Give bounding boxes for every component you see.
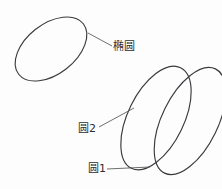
diagram-canvas bbox=[0, 0, 222, 189]
ellipse-shape bbox=[3, 4, 98, 94]
label-ellipse: 椭圆 bbox=[113, 40, 135, 53]
label-circle2: 圆2 bbox=[78, 122, 96, 135]
leader-line-ellipse bbox=[88, 33, 112, 46]
leader-line-circle2 bbox=[99, 108, 134, 127]
geometry-diagram: 椭圆 圆2 圆1 bbox=[0, 0, 222, 189]
label-circle1: 圆1 bbox=[88, 162, 106, 175]
